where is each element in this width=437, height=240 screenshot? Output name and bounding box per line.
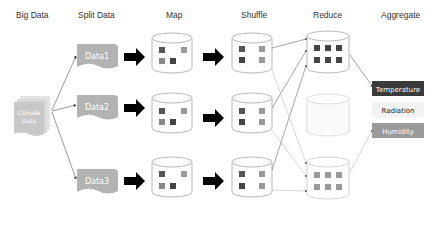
map-node-2 (152, 93, 192, 133)
map-node-1 (152, 33, 192, 73)
shuffle-node-1 (232, 33, 272, 73)
reduce-node-2 (307, 94, 349, 136)
arrow-icon (124, 48, 145, 190)
map-node-3 (152, 157, 192, 197)
climate-data-source: Climate Data (14, 96, 50, 136)
svg-text:Data1: Data1 (85, 52, 109, 61)
aggregate-lines (350, 55, 372, 172)
svg-text:Humidity: Humidity (382, 128, 414, 136)
split-data-3: Data3 (77, 169, 118, 194)
output-radiation: Radiation (372, 102, 424, 117)
climate-label-2: Data (22, 117, 37, 124)
split-lines (52, 56, 76, 179)
shuffle-lines (272, 39, 306, 191)
split-data-2: Data2 (77, 95, 118, 120)
svg-text:Temperature: Temperature (375, 86, 420, 94)
reduce-node-1 (307, 31, 349, 73)
shuffle-node-3 (232, 157, 272, 197)
climate-label-1: Climate (17, 109, 40, 116)
reduce-node-3 (307, 157, 349, 199)
output-temperature: Temperature (372, 81, 424, 96)
svg-text:Radiation: Radiation (381, 107, 414, 115)
output-humidity: Humidity (372, 123, 424, 138)
arrow-icon (203, 48, 224, 190)
svg-text:Data3: Data3 (85, 177, 109, 186)
shuffle-node-2 (232, 93, 272, 133)
svg-text:Data2: Data2 (85, 103, 109, 112)
split-data-1: Data1 (77, 44, 118, 69)
